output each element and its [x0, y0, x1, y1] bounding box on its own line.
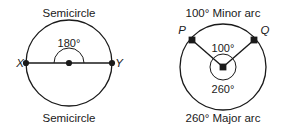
point-label-p: P: [178, 24, 186, 36]
right-bottom-caption: 260° Major arc: [186, 112, 261, 124]
right-top-caption: 100° Minor arc: [186, 7, 261, 19]
left-semicircle-group: Semicircle 180° X Y Semicircle: [15, 7, 124, 124]
right-central-angle-label: 100°: [212, 42, 235, 54]
right-reflex-angle-label: 260°: [212, 83, 235, 95]
left-central-angle-label: 180°: [58, 37, 81, 49]
left-top-caption: Semicircle: [42, 7, 95, 19]
right-arc-group: 100° Minor arc P Q 100° 260° 260° Major …: [178, 7, 269, 124]
point-label-q: Q: [261, 24, 270, 36]
left-bottom-caption: Semicircle: [42, 112, 95, 124]
geometry-figure: Semicircle 180° X Y Semicircle 100° Mino…: [0, 0, 284, 128]
point-label-y: Y: [115, 57, 124, 69]
point-p-marker: [189, 37, 196, 44]
point-q-marker: [251, 37, 258, 44]
right-center-marker: [220, 64, 227, 71]
diagram-canvas: Semicircle 180° X Y Semicircle 100° Mino…: [0, 0, 284, 128]
left-center-dot: [66, 60, 72, 66]
point-label-x: X: [15, 57, 25, 69]
point-y-dot: [109, 60, 115, 66]
